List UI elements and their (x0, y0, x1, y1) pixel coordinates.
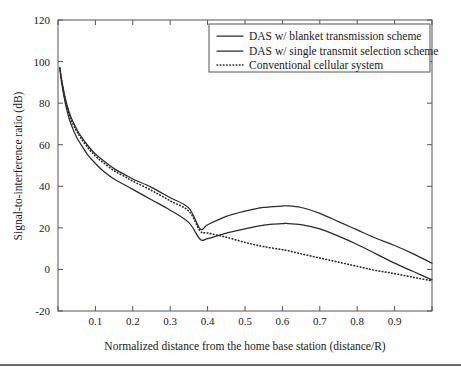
y-tick-label: -20 (35, 305, 50, 317)
x-tick-label: 0.3 (163, 315, 177, 327)
legend-label-blanket: DAS w/ blanket transmission scheme (249, 30, 421, 42)
y-tick-label: 0 (45, 263, 51, 275)
x-tick-label: 0.2 (126, 315, 140, 327)
x-tick-label: 0.9 (388, 315, 402, 327)
y-tick-label: 20 (39, 222, 51, 234)
x-tick-label: 0.5 (238, 315, 252, 327)
x-tick-label: 0.1 (89, 315, 103, 327)
legend-label-single-transmit: DAS w/ single transmit selection scheme (249, 45, 438, 58)
x-tick-label: 0.7 (313, 315, 327, 327)
x-tick-label: 0.4 (201, 315, 215, 327)
x-axis-title: Normalized distance from the home base s… (104, 340, 386, 353)
y-tick-label: 40 (39, 180, 51, 192)
figure-container: -20020406080100120 0.10.20.30.40.50.60.7… (0, 0, 461, 370)
x-tick-label: 0.6 (276, 315, 290, 327)
chart-legend: DAS w/ blanket transmission scheme DAS w… (209, 24, 438, 72)
y-axis-tick-labels: -20020406080100120 (34, 14, 51, 317)
y-axis-title: Signal-to-interference ratio (dB) (12, 91, 25, 240)
x-axis-tick-labels: 0.10.20.30.40.50.60.70.80.9 (89, 315, 402, 327)
series-path-2 (60, 68, 432, 281)
legend-label-conventional: Conventional cellular system (249, 59, 383, 72)
series-path-1 (60, 69, 432, 280)
y-tick-label: 60 (39, 139, 51, 151)
data-series-group (60, 68, 432, 281)
signal-to-interference-ratio-chart: -20020406080100120 0.10.20.30.40.50.60.7… (0, 0, 461, 370)
y-tick-label: 100 (34, 56, 51, 68)
series-path-0 (60, 68, 432, 263)
x-tick-label: 0.8 (350, 315, 364, 327)
y-tick-label: 120 (34, 14, 51, 26)
y-tick-label: 80 (39, 97, 51, 109)
